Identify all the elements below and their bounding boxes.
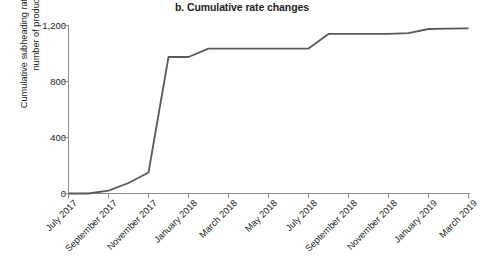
x-tick-label-10: March 2019 (437, 198, 479, 240)
x-tick-label-6: July 2018 (284, 198, 319, 233)
x-tick-label-3: January 2018 (152, 198, 199, 245)
data-line-cumulative-rate-changes (69, 28, 469, 193)
x-tick-label-4: March 2018 (197, 198, 239, 240)
x-tick-label-5: May 2018 (243, 198, 279, 234)
x-tick-label-9: January 2019 (392, 198, 439, 245)
x-axis-tick-labels: July 2017 September 2017 November 2017 J… (0, 198, 484, 270)
y-axis-ticks (63, 26, 69, 194)
x-tick-label-0: July 2017 (44, 198, 79, 233)
chart-container: b. Cumulative rate changes Cumulative su… (0, 0, 484, 270)
